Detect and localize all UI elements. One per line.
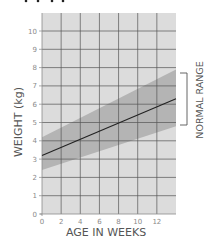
x-tick-label: 4	[78, 218, 83, 226]
x-tick-label: 6	[97, 218, 102, 226]
x-tick-label: 0	[40, 218, 44, 226]
y-axis-ticks: 012345678910	[28, 28, 42, 219]
x-axis-title: AGE IN WEEKS	[66, 226, 146, 239]
y-tick-label: 7	[33, 82, 37, 90]
y-tick-label: 5	[33, 119, 37, 127]
y-axis-title: WEIGHT (kg)	[12, 87, 25, 157]
y-tick-label: 1	[33, 192, 37, 200]
normal-range-bracket	[180, 73, 187, 125]
y-tick-label: 8	[33, 64, 37, 72]
title-cut-off	[18, 0, 78, 4]
growth-chart: 012345678910 024681012 WEIGHT (kg) AGE I…	[0, 0, 211, 243]
y-tick-label: 3	[33, 156, 37, 164]
x-tick-label: 10	[133, 218, 142, 226]
y-tick-label: 9	[33, 46, 37, 54]
y-tick-label: 2	[33, 174, 37, 182]
x-tick-label: 2	[59, 218, 63, 226]
normal-range-label: NORMAL RANGE	[194, 61, 205, 138]
y-tick-label: 4	[33, 137, 38, 145]
x-tick-label: 12	[152, 218, 161, 226]
x-tick-label: 8	[116, 218, 120, 226]
y-tick-label: 6	[33, 101, 38, 109]
y-tick-label: 10	[28, 28, 37, 36]
x-axis-ticks: 024681012	[40, 218, 162, 226]
y-tick-label: 0	[33, 211, 37, 219]
